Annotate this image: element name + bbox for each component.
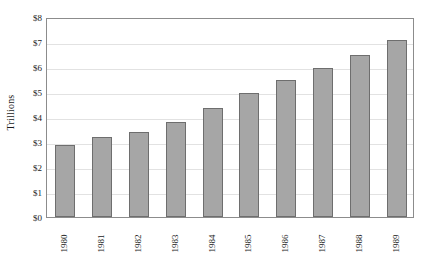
bars-group [47,19,413,217]
y-tick-label: $7 [33,39,42,48]
bar [313,68,333,217]
x-tick-label-text: 1985 [244,224,253,264]
plot-area [46,18,414,218]
y-tick-label: $5 [33,89,42,98]
x-tick-label-text: 1982 [134,224,143,264]
bar [350,55,370,218]
x-axis-tick-labels: 1980198119821983198419851986198719881989 [46,219,414,264]
bar [92,137,112,217]
bar [55,145,75,218]
y-tick-label: $6 [33,64,42,73]
bar [203,108,223,217]
bar [129,132,149,217]
bar-chart: Trillions $0$1$2$3$4$5$6$7$8 19801981198… [0,0,432,264]
y-tick-label: $3 [33,139,42,148]
y-tick-label: $0 [33,214,42,223]
bar [166,122,186,217]
y-tick-label: $8 [33,14,42,23]
x-tick-label-text: 1989 [391,224,400,264]
x-tick-label-text: 1987 [318,224,327,264]
x-tick-label-text: 1988 [354,224,363,264]
y-tick-label: $4 [33,114,42,123]
x-tick-label-text: 1984 [207,224,216,264]
x-tick-label-text: 1980 [60,224,69,264]
y-axis-title-label: Trillions [6,94,17,130]
bar [239,93,259,217]
y-tick-label: $1 [33,189,42,198]
y-tick-label: $2 [33,164,42,173]
y-axis-title: Trillions [0,0,22,224]
x-tick-label-text: 1986 [281,224,290,264]
y-axis-tick-labels: $0$1$2$3$4$5$6$7$8 [22,18,44,218]
x-tick-label-text: 1981 [97,224,106,264]
bar [276,80,296,218]
x-tick-label-text: 1983 [170,224,179,264]
bar [387,40,407,218]
